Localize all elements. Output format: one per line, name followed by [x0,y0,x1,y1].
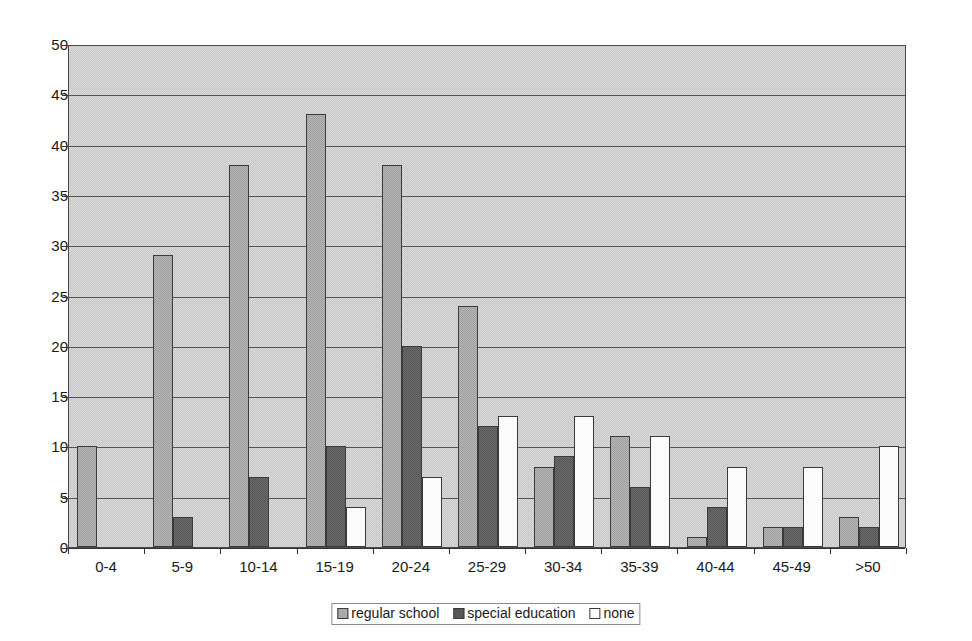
x-tick-label-3034: 30-34 [525,558,601,576]
x-tick-mark-4 [373,548,374,554]
bars-layer [69,46,905,547]
bar-4044-special-education [707,507,727,547]
x-tick-label-1519: 15-19 [297,558,373,576]
bar-2529-regular-school [458,306,478,547]
bar-3539-none [650,436,670,547]
x-tick-mark-2 [220,548,221,554]
y-tick-label-30: 30 [12,238,68,253]
bar-50-special-education [859,527,879,547]
y-tick-label-10: 10 [12,439,68,454]
x-tick-mark-3 [297,548,298,554]
x-tick-mark-6 [525,548,526,554]
x-tick-label-50: >50 [830,558,906,576]
bar-1014-regular-school [229,165,249,547]
legend-label-none: none [603,606,634,621]
bar-3034-special-education [554,456,574,547]
bar-1519-special-education [326,446,346,547]
x-tick-label-4549: 45-49 [754,558,830,576]
x-tick-mark-0 [68,548,69,554]
bar-04-regular-school [77,446,97,547]
bar-2529-none [498,416,518,547]
x-tick-label-2024: 20-24 [373,558,449,576]
legend-swatch-icon-none [589,608,600,619]
bar-50-regular-school [839,517,859,547]
y-tick-label-25: 25 [12,289,68,304]
x-tick-label-04: 0-4 [68,558,144,576]
x-tick-label-3539: 35-39 [601,558,677,576]
x-tick-mark-10 [830,548,831,554]
x-tick-mark-1 [144,548,145,554]
y-tick-label-50: 50 [12,37,68,52]
x-tick-mark-7 [601,548,602,554]
x-tick-label-1014: 10-14 [220,558,296,576]
bar-1519-regular-school [306,114,326,547]
legend-swatch-icon-special-education [453,608,464,619]
bar-4549-regular-school [763,527,783,547]
bar-4549-none [803,467,823,547]
bar-59-regular-school [153,255,173,547]
bar-1519-none [346,507,366,547]
y-tick-label-40: 40 [12,138,68,153]
chart-legend: regular schoolspecial educationnone [331,603,640,625]
bar-2024-none [422,477,442,547]
bar-4044-none [727,467,747,547]
legend-item-regular-school[interactable]: regular school [337,606,439,621]
x-tick-label-4044: 40-44 [677,558,753,576]
bar-4044-regular-school [687,537,707,547]
x-tick-mark-end [906,548,907,554]
x-tick-mark-9 [754,548,755,554]
legend-swatch-icon-regular-school [337,608,348,619]
y-axis: 50454035302520151050 [0,45,68,548]
bar-2024-special-education [402,346,422,547]
y-tick-label-45: 45 [12,87,68,102]
bar-chart: 50454035302520151050 0-45-910-1415-1920-… [0,0,972,641]
gridline-0 [69,548,905,549]
bar-59-special-education [173,517,193,547]
y-tick-label-15: 15 [12,389,68,404]
bar-3539-special-education [630,487,650,547]
bar-50-none [879,446,899,547]
legend-item-none[interactable]: none [589,606,634,621]
x-tick-mark-5 [449,548,450,554]
legend-label-regular-school: regular school [351,606,439,621]
x-tick-label-2529: 25-29 [449,558,525,576]
x-tick-mark-8 [677,548,678,554]
legend-item-special-education[interactable]: special education [453,606,575,621]
y-tick-label-0: 0 [12,540,68,555]
bar-1014-special-education [249,477,269,547]
x-tick-label-59: 5-9 [144,558,220,576]
y-tick-label-20: 20 [12,339,68,354]
legend-label-special-education: special education [467,606,575,621]
bar-3539-regular-school [610,436,630,547]
bar-4549-special-education [783,527,803,547]
bar-2024-regular-school [382,165,402,547]
bar-2529-special-education [478,426,498,547]
y-tick-label-35: 35 [12,188,68,203]
bar-3034-none [574,416,594,547]
plot-area [68,45,906,548]
bar-3034-regular-school [534,467,554,547]
y-tick-label-5: 5 [12,490,68,505]
